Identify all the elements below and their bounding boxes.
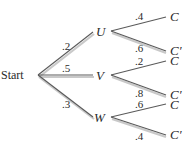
node-v-c: C xyxy=(170,53,179,68)
node-start: Start xyxy=(1,68,24,82)
prob-u-cprime: .6 xyxy=(135,42,144,54)
prob-u: .2 xyxy=(62,40,70,52)
node-w-c: C xyxy=(170,97,179,112)
node-w-cprime: C′ xyxy=(170,127,182,142)
node-u: U xyxy=(96,24,107,39)
prob-w-c: .6 xyxy=(135,98,144,110)
probability-tree: Start .2 .5 .3 U V W .4 .6 .2 .8 .6 .4 C… xyxy=(0,0,187,149)
prob-u-c: .4 xyxy=(135,10,144,22)
node-v: V xyxy=(96,68,106,83)
edge-start-w xyxy=(38,75,93,117)
node-u-c: C xyxy=(170,9,179,24)
prob-v: .5 xyxy=(62,62,71,74)
prob-w-cprime: .4 xyxy=(135,130,144,142)
node-w: W xyxy=(94,110,106,125)
prob-w: .3 xyxy=(62,98,71,110)
prob-v-c: .2 xyxy=(135,55,143,67)
